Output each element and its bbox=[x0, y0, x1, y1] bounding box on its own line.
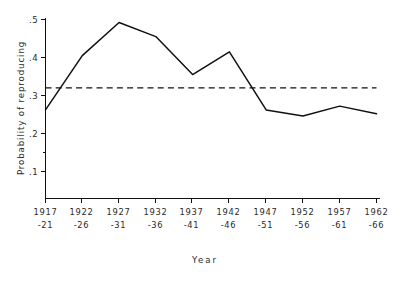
x-tick-label-1927: 1927 bbox=[107, 207, 131, 217]
x-tick-sublabel-36: -36 bbox=[148, 220, 164, 230]
y-tick-label-0.1: .1 bbox=[29, 167, 38, 177]
x-axis-title: Year bbox=[191, 255, 218, 265]
y-tick-label-0.4: .4 bbox=[29, 53, 38, 63]
x-tick-sublabel-41: -41 bbox=[184, 220, 200, 230]
x-tick-label-1957: 1957 bbox=[328, 207, 352, 217]
x-tick-label-1932: 1932 bbox=[144, 207, 168, 217]
y-tick-label-0.5: .5 bbox=[29, 15, 38, 25]
x-tick-label-1947: 1947 bbox=[254, 207, 278, 217]
x-tick-sublabel-51: -51 bbox=[258, 220, 274, 230]
data-series-line bbox=[46, 23, 377, 116]
x-tick-sublabel-31: -31 bbox=[111, 220, 127, 230]
y-tick-label-0.2: .2 bbox=[29, 129, 38, 139]
x-tick-label-1962: 1962 bbox=[365, 207, 389, 217]
x-axis-tick-labels-end-year: -21 -26 -31 -36 -41 -46 -51 -56 -61 -66 bbox=[38, 220, 385, 230]
x-tick-sublabel-56: -56 bbox=[295, 220, 311, 230]
y-tick-label-0.3: .3 bbox=[29, 91, 38, 101]
x-tick-sublabel-26: -26 bbox=[74, 220, 90, 230]
y-axis-ticks bbox=[41, 20, 46, 172]
x-tick-label-1952: 1952 bbox=[291, 207, 315, 217]
x-tick-sublabel-61: -61 bbox=[332, 220, 348, 230]
x-tick-sublabel-66: -66 bbox=[369, 220, 385, 230]
x-axis-ticks bbox=[46, 199, 377, 204]
x-axis-tick-labels-start-year: 1917 1922 1927 1932 1937 1942 1947 1952 … bbox=[34, 207, 389, 217]
x-tick-label-1942: 1942 bbox=[217, 207, 241, 217]
chart-figure: .5 .4 .3 .2 .1 Probability of reproducin… bbox=[0, 0, 406, 284]
y-axis-tick-labels: .5 .4 .3 .2 .1 bbox=[29, 15, 38, 177]
x-tick-sublabel-21: -21 bbox=[38, 220, 54, 230]
y-axis-title: Probability of reproducing bbox=[16, 41, 26, 175]
x-tick-sublabel-46: -46 bbox=[221, 220, 237, 230]
probability-of-reproducing-line-chart: .5 .4 .3 .2 .1 Probability of reproducin… bbox=[0, 0, 406, 284]
x-tick-label-1917: 1917 bbox=[34, 207, 58, 217]
x-tick-label-1937: 1937 bbox=[180, 207, 204, 217]
x-tick-label-1922: 1922 bbox=[70, 207, 94, 217]
